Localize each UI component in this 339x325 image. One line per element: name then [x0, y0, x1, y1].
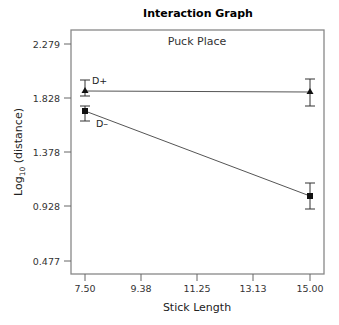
- triangle-marker-icon: [82, 87, 89, 93]
- triangle-marker-icon: [307, 88, 314, 94]
- x-tick-label: 13.13: [239, 283, 266, 294]
- x-tick-label: 11.25: [183, 283, 210, 294]
- square-marker-icon: [307, 193, 313, 199]
- series-label-d-minus: D–: [96, 118, 108, 129]
- y-axis-label: Log10 (distance): [12, 108, 27, 196]
- interaction-chart: Interaction Graph Puck Place 2.279 1.828…: [0, 0, 339, 325]
- chart-title: Interaction Graph: [143, 7, 253, 20]
- y-tick-label: 0.477: [33, 256, 60, 267]
- x-axis-label: Stick Length: [163, 301, 231, 314]
- y-tick-label: 1.378: [33, 147, 60, 158]
- y-tick-label: 2.279: [33, 39, 60, 50]
- x-tick-label: 7.50: [74, 283, 95, 294]
- y-tick-label: 0.928: [33, 201, 60, 212]
- plot-frame: [71, 30, 324, 274]
- series-d-plus: D+: [80, 75, 315, 106]
- x-axis: 7.50 9.38 11.25 13.13 15.00 Stick Length: [74, 274, 323, 314]
- y-axis: 2.279 1.828 1.378 0.928 0.477 Log10 (dis…: [12, 39, 71, 267]
- series-label-d-plus: D+: [92, 75, 107, 86]
- series-d-minus: D–: [80, 106, 315, 209]
- y-tick-label: 1.828: [33, 93, 60, 104]
- error-bar: [80, 106, 315, 209]
- x-tick-label: 15.00: [296, 283, 323, 294]
- square-marker-icon: [82, 108, 88, 114]
- chart-subtitle: Puck Place: [168, 35, 227, 48]
- error-bar: [80, 79, 315, 106]
- x-tick-label: 9.38: [130, 283, 151, 294]
